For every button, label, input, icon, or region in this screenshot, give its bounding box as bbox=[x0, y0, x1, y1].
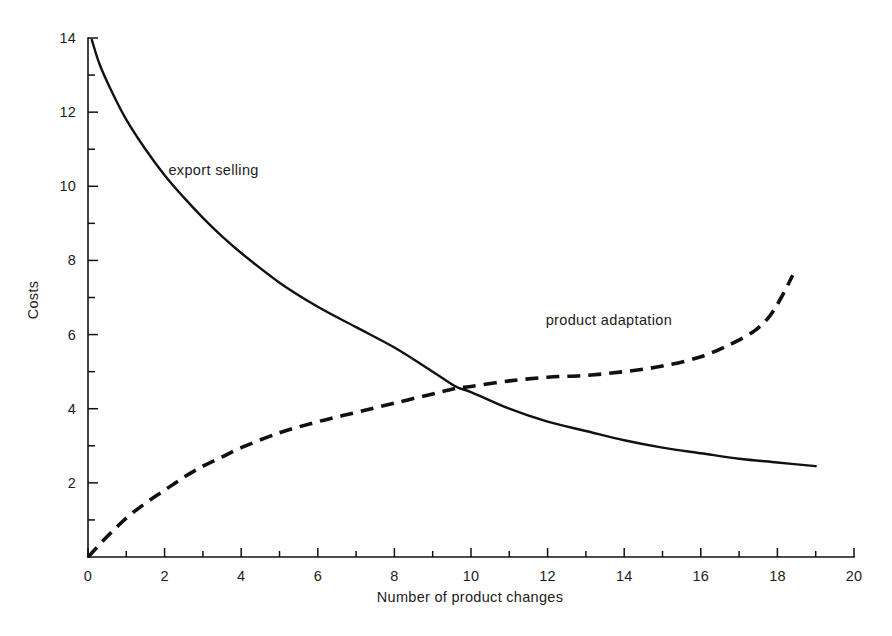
x-tick-label: 2 bbox=[160, 568, 168, 584]
y-tick-label: 6 bbox=[68, 327, 76, 343]
x-tick-label: 4 bbox=[237, 568, 245, 584]
y-tick-label: 8 bbox=[68, 252, 76, 268]
series-label-product-adaptation: product adaptation bbox=[546, 312, 672, 328]
x-tick-label: 8 bbox=[390, 568, 398, 584]
x-axis-title: Number of product changes bbox=[377, 589, 563, 605]
x-tick-label: 20 bbox=[846, 568, 863, 584]
y-tick-label: 2 bbox=[68, 475, 76, 491]
x-tick-label: 14 bbox=[616, 568, 633, 584]
series-product-adaptation-curve bbox=[88, 275, 793, 557]
chart-figure: 02468101214161820 2468101214 export sell… bbox=[0, 0, 892, 636]
chart-canvas: 02468101214161820 2468101214 export sell… bbox=[0, 0, 892, 636]
y-axis-ticks bbox=[88, 38, 98, 520]
y-axis-tick-labels: 2468101214 bbox=[59, 30, 76, 491]
series-label-export-selling: export selling bbox=[168, 162, 258, 178]
y-tick-label: 12 bbox=[59, 104, 76, 120]
y-tick-label: 4 bbox=[68, 401, 76, 417]
y-axis-title: Costs bbox=[25, 281, 41, 320]
axes-group bbox=[88, 38, 854, 557]
x-tick-label: 16 bbox=[693, 568, 710, 584]
series-export-selling-curve bbox=[92, 40, 816, 466]
x-axis-tick-labels: 02468101214161820 bbox=[84, 568, 862, 584]
x-tick-label: 10 bbox=[463, 568, 480, 584]
y-tick-label: 14 bbox=[59, 30, 76, 46]
x-tick-label: 12 bbox=[539, 568, 556, 584]
y-tick-label: 10 bbox=[59, 178, 76, 194]
x-tick-label: 6 bbox=[314, 568, 322, 584]
x-tick-label: 0 bbox=[84, 568, 92, 584]
x-tick-label: 18 bbox=[769, 568, 786, 584]
x-axis-ticks bbox=[88, 548, 854, 557]
